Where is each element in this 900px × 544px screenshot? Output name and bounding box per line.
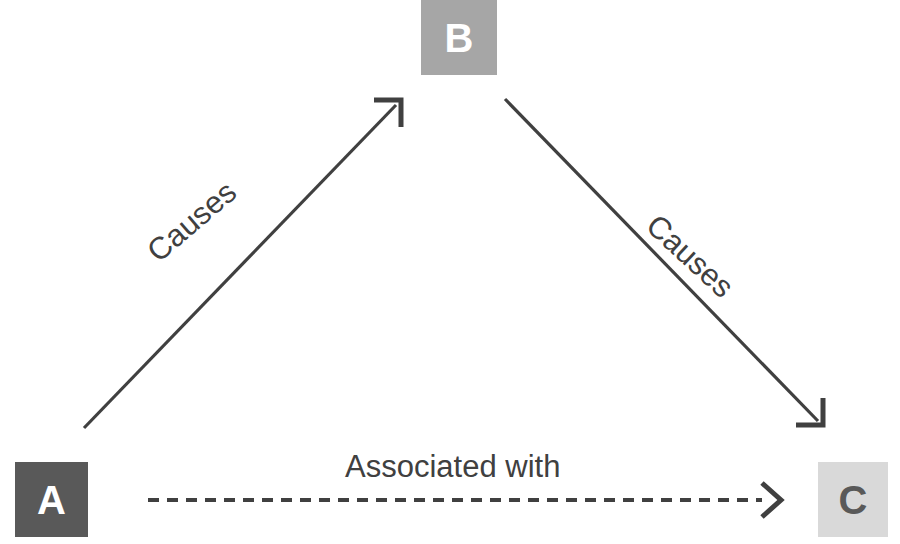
edge-label-a-to-c: Associated with	[345, 449, 560, 485]
node-a[interactable]: A	[15, 462, 88, 537]
edge-b-to-c[interactable]	[505, 99, 823, 425]
edge-a-to-b-line	[84, 105, 396, 428]
node-a-label: A	[37, 480, 66, 520]
diagram-canvas: A B C Causes Causes Associated with	[0, 0, 900, 544]
node-b[interactable]: B	[421, 0, 497, 75]
edge-a-to-c-arrowhead-icon	[762, 483, 781, 517]
node-c-label: C	[839, 480, 868, 520]
node-c[interactable]: C	[818, 462, 888, 537]
edge-a-to-c[interactable]	[148, 483, 781, 517]
edge-a-to-b[interactable]	[84, 100, 401, 428]
edge-b-to-c-line	[505, 99, 818, 421]
node-b-label: B	[445, 18, 474, 58]
